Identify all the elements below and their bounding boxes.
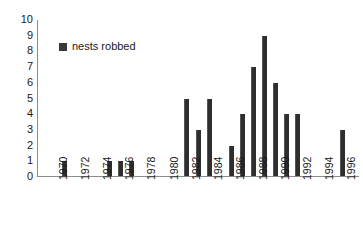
x-axis-tick-label: 1992 [302, 157, 313, 180]
x-axis-tick-label: 1972 [80, 157, 91, 180]
x-axis-tick-label: 1986 [235, 157, 246, 180]
legend-entry-label: nests robbed [72, 41, 136, 52]
chart-legend: nests robbed [59, 41, 136, 52]
x-axis-tick-labels: 1970197219741976197819801982198419861988… [0, 0, 363, 235]
x-axis-tick-label: 1970 [58, 157, 69, 180]
legend-color-swatch-icon [59, 43, 67, 51]
x-axis-tick-label: 1974 [102, 157, 113, 180]
x-axis-tick-label: 1978 [146, 157, 157, 180]
x-axis-tick-label: 1994 [324, 157, 335, 180]
x-axis-tick-label: 1976 [124, 157, 135, 180]
bar-chart: 109876543210 197019721974197619781980198… [0, 0, 363, 235]
x-axis-tick-label: 1980 [169, 157, 180, 180]
x-axis-tick-label: 1990 [280, 157, 291, 180]
x-axis-tick-label: 1988 [258, 157, 269, 180]
x-axis-tick-label: 1984 [213, 157, 224, 180]
x-axis-tick-label: 1982 [191, 157, 202, 180]
x-axis-tick-label: 1996 [346, 157, 357, 180]
